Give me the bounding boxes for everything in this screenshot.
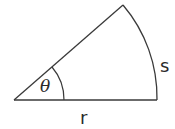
angle-marker-arc bbox=[52, 67, 64, 100]
sector-arc bbox=[123, 5, 157, 100]
radius-label: r bbox=[80, 107, 88, 128]
arc-length-label: s bbox=[160, 55, 169, 76]
radius-line-top bbox=[14, 5, 123, 100]
angle-label: θ bbox=[40, 76, 50, 96]
sector-diagram: θ s r bbox=[0, 0, 175, 129]
